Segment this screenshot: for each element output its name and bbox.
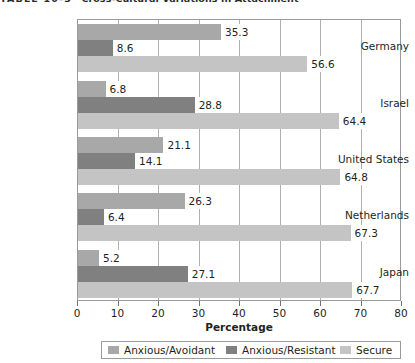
chart-legend: Anxious/AvoidantAnxious/ResistantSecure <box>101 341 401 359</box>
x-tick-label: 30 <box>192 307 205 319</box>
bar[interactable] <box>78 40 113 56</box>
bar-value-label: 14.1 <box>136 153 162 169</box>
x-tick <box>401 301 402 306</box>
x-tick <box>77 301 78 306</box>
bar-value-label: 35.3 <box>222 24 248 40</box>
bar-value-label: 21.1 <box>164 137 190 153</box>
chart-title: TABLE 10-3 Cross-Cultural Variations in … <box>0 0 415 5</box>
bar-value-label: 56.6 <box>308 56 334 72</box>
legend-label: Anxious/Resistant <box>242 344 336 356</box>
bar[interactable] <box>78 153 135 169</box>
bar-value-label: 67.7 <box>353 282 379 298</box>
bar-value-label: 6.4 <box>105 209 125 225</box>
x-axis-title: Percentage <box>77 321 401 333</box>
x-tick-label: 50 <box>273 307 286 319</box>
bar-value-label: 26.3 <box>186 193 212 209</box>
x-tick-label: 0 <box>74 307 81 319</box>
legend-label: Anxious/Avoidant <box>124 344 215 356</box>
bar[interactable] <box>78 113 339 129</box>
legend-swatch-icon <box>226 346 237 354</box>
bar-value-label: 27.1 <box>189 266 215 282</box>
legend-item[interactable]: Anxious/Avoidant <box>108 344 215 356</box>
bar[interactable] <box>78 225 351 241</box>
category-label-germany: Germany <box>299 40 409 52</box>
x-tick <box>361 301 362 306</box>
bar[interactable] <box>78 24 221 40</box>
legend-item[interactable]: Anxious/Resistant <box>226 344 336 356</box>
category-label-united-states: United States <box>299 153 409 165</box>
category-label-israel: Israel <box>299 97 409 109</box>
bar[interactable] <box>78 56 307 72</box>
bar[interactable] <box>78 169 340 185</box>
bar[interactable] <box>78 137 163 153</box>
bar-value-label: 64.4 <box>340 113 366 129</box>
chart-title-number: TABLE 10-3 <box>0 0 72 4</box>
legend-label: Secure <box>356 344 392 356</box>
x-tick-label: 10 <box>111 307 124 319</box>
x-tick-label: 40 <box>232 307 245 319</box>
bar[interactable] <box>78 97 195 113</box>
bar[interactable] <box>78 209 104 225</box>
x-tick <box>199 301 200 306</box>
legend-swatch-icon <box>340 346 351 354</box>
x-tick <box>280 301 281 306</box>
bar[interactable] <box>78 282 352 298</box>
bar[interactable] <box>78 250 99 266</box>
x-tick <box>118 301 119 306</box>
bar[interactable] <box>78 81 106 97</box>
category-label-netherlands: Netherlands <box>299 209 409 221</box>
legend-item[interactable]: Secure <box>340 344 392 356</box>
x-tick-label: 70 <box>354 307 367 319</box>
x-tick-label: 20 <box>151 307 164 319</box>
bar-value-label: 67.3 <box>352 225 378 241</box>
category-label-japan: Japan <box>299 266 409 278</box>
bar-value-label: 6.8 <box>107 81 127 97</box>
chart-title-text: Cross-Cultural Variations in Attachment <box>81 0 298 4</box>
bar-value-label: 8.6 <box>114 40 134 56</box>
legend-swatch-icon <box>108 346 119 354</box>
bar-value-label: 64.8 <box>341 169 367 185</box>
x-tick <box>239 301 240 306</box>
x-tick <box>158 301 159 306</box>
x-tick-label: 80 <box>394 307 407 319</box>
x-tick <box>320 301 321 306</box>
bar[interactable] <box>78 193 185 209</box>
x-tick-label: 60 <box>313 307 326 319</box>
bar-value-label: 5.2 <box>100 250 120 266</box>
bar-value-label: 28.8 <box>196 97 222 113</box>
bar[interactable] <box>78 266 188 282</box>
